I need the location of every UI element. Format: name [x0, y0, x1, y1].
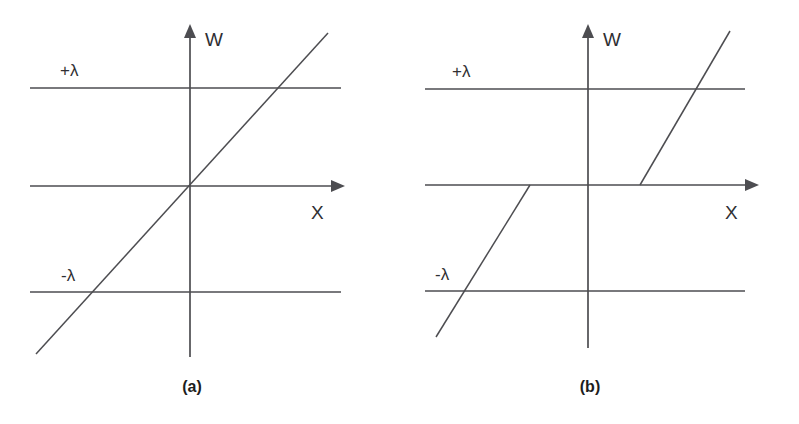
w-axis-arrow-icon-b [582, 24, 594, 38]
soft-threshold-left-segment-b [436, 185, 530, 337]
w-axis-label-a: W [205, 29, 223, 50]
soft-threshold-right-segment-b [640, 31, 730, 185]
w-axis-label-b: W [603, 29, 621, 50]
x-axis-label-a: X [311, 202, 324, 223]
x-axis-arrow-icon-b [745, 179, 759, 191]
upper-threshold-label-a: +λ [60, 61, 79, 80]
x-axis-label-b: X [725, 202, 738, 223]
panel-a: W X +λ -λ (a) [0, 0, 400, 424]
figure-root: W X +λ -λ (a) W X [0, 0, 799, 424]
lower-threshold-label-a: -λ [61, 266, 76, 285]
panel-caption-b: (b) [580, 378, 600, 395]
w-axis-arrow-icon-a [184, 24, 196, 38]
panel-b-plot: W X +λ -λ (b) [400, 0, 799, 424]
panel-b: W X +λ -λ (b) [400, 0, 799, 424]
identity-line-a [36, 33, 328, 354]
lower-threshold-label-b: -λ [435, 265, 450, 284]
panel-a-plot: W X +λ -λ (a) [0, 0, 400, 424]
x-axis-arrow-icon-a [331, 180, 345, 192]
panel-caption-a: (a) [182, 378, 202, 395]
upper-threshold-label-b: +λ [452, 62, 471, 81]
